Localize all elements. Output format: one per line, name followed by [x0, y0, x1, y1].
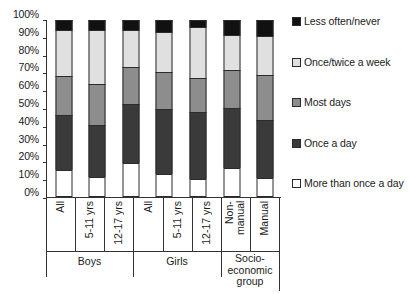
bar-segment-less-often-never: [89, 20, 106, 30]
category-axis: All 5-11 yrs 12-17 yrs All 5-11 yrs 12-1…: [46, 198, 281, 294]
category-separator: [133, 198, 134, 251]
bar-segment-more-than-once-a-day: [223, 168, 240, 197]
bar-segment-most-days: [257, 75, 274, 120]
bar-segment-once-twice-a-week: [257, 36, 274, 75]
y-tick-label-0: 0%: [24, 187, 39, 197]
category-label-girls-5-11: 5-11 yrs: [172, 201, 183, 238]
y-tick-label-30: 30%: [19, 134, 39, 144]
bar-segment-less-often-never: [156, 20, 173, 32]
bar-segment-most-days: [89, 84, 106, 126]
bar-segment-once-twice-a-week: [122, 30, 139, 67]
legend-swatch-icon: [292, 139, 301, 148]
stacked-bar-chart: 100% 90% 80% 70% 60% 50% 40% 30% 20% 10%…: [0, 0, 413, 294]
group-label-girls: Girls: [133, 256, 221, 268]
bar-stack: [122, 20, 139, 197]
category-separator: [46, 198, 47, 251]
y-tick-label-100: 100%: [13, 9, 39, 19]
bar-stack: [156, 20, 173, 197]
legend-item-more-than-once-a-day[interactable]: More than once a day: [292, 178, 404, 189]
legend-swatch-icon: [292, 17, 301, 26]
group-label-ses-line1: Socio-: [221, 253, 279, 265]
legend-item-once-a-day[interactable]: Once a day: [292, 138, 357, 149]
bar-segment-once-a-day: [89, 125, 106, 176]
bar-segment-most-days: [122, 67, 139, 104]
bar-segment-once-a-day: [55, 115, 72, 171]
bar-segment-more-than-once-a-day: [156, 174, 173, 197]
group-label-ses-line3: group: [221, 276, 279, 288]
bar-segment-less-often-never: [122, 20, 139, 30]
bar-segment-once-twice-a-week: [156, 32, 173, 72]
bar-girls-5-11[interactable]: [181, 20, 215, 197]
category-separator: [192, 198, 193, 251]
bar-boys-12-17[interactable]: [114, 20, 148, 197]
bar-segment-once-a-day: [223, 108, 240, 168]
bar-segment-most-days: [55, 76, 72, 115]
y-tick-label-60: 60%: [19, 80, 39, 90]
bar-segment-most-days: [156, 72, 173, 109]
category-separator: [279, 198, 280, 251]
group-label-boys: Boys: [46, 256, 133, 268]
bar-segment-once-twice-a-week: [55, 30, 72, 76]
category-separator: [75, 198, 76, 251]
bar-stack: [257, 20, 274, 197]
bar-segment-once-a-day: [156, 109, 173, 174]
legend-item-most-days[interactable]: Most days: [292, 97, 351, 108]
bar-segment-less-often-never: [223, 20, 240, 35]
bar-stack: [89, 20, 106, 197]
legend-swatch-icon: [292, 98, 301, 107]
legend-item-once-twice-a-week[interactable]: Once/twice a week: [292, 57, 390, 68]
category-separator: [104, 198, 105, 251]
category-label-girls-all: All: [143, 201, 154, 213]
category-label-ses-manual: Manual: [259, 201, 270, 235]
bar-boys-all[interactable]: [47, 20, 81, 197]
bar-segment-more-than-once-a-day: [122, 163, 139, 197]
legend-label: Less often/never: [304, 16, 380, 27]
bar-segment-more-than-once-a-day: [257, 178, 274, 197]
legend: Less often/neverOnce/twice a weekMost da…: [292, 16, 413, 196]
legend-label: More than once a day: [304, 178, 404, 189]
bar-segment-most-days: [223, 70, 240, 108]
bar-segment-once-twice-a-week: [89, 30, 106, 84]
legend-label: Once a day: [304, 138, 357, 149]
bar-stack: [190, 20, 207, 197]
category-label-boys-12-17: 12-17 yrs: [113, 201, 124, 245]
legend-label: Most days: [304, 97, 351, 108]
bar-stack: [55, 20, 72, 197]
bar-segment-most-days: [190, 78, 207, 112]
bar-segment-more-than-once-a-day: [190, 179, 207, 197]
category-separator: [221, 198, 222, 251]
y-tick-label-80: 80%: [19, 45, 39, 55]
y-tick-label-40: 40%: [19, 116, 39, 126]
bar-segment-once-twice-a-week: [190, 27, 207, 78]
bar-stack: [223, 20, 240, 197]
bar-segment-less-often-never: [55, 20, 72, 30]
bar-girls-12-17[interactable]: [215, 20, 249, 197]
bar-segment-more-than-once-a-day: [89, 177, 106, 197]
bar-segment-less-often-never: [190, 20, 207, 27]
y-tick-label-20: 20%: [19, 151, 39, 161]
legend-swatch-icon: [292, 179, 301, 188]
y-tick-label-70: 70%: [19, 62, 39, 72]
bar-segment-once-a-day: [190, 112, 207, 179]
bar-boys-5-11[interactable]: [81, 20, 115, 197]
legend-swatch-icon: [292, 58, 301, 67]
legend-label: Once/twice a week: [304, 57, 390, 68]
category-separator: [163, 198, 164, 251]
plot-area: [46, 20, 281, 198]
bar-segment-more-than-once-a-day: [55, 170, 72, 197]
bar-segment-once-a-day: [257, 120, 274, 178]
bar-girls-all[interactable]: [148, 20, 182, 197]
bar-segment-less-often-never: [257, 20, 274, 36]
bar-segment-once-twice-a-week: [223, 35, 240, 70]
bar-segment-once-a-day: [122, 104, 139, 163]
bar-ses-non-manual[interactable]: [248, 20, 282, 197]
y-tick-label-90: 90%: [19, 27, 39, 37]
y-tick-label-10: 10%: [19, 169, 39, 179]
legend-item-less-often-never[interactable]: Less often/never: [292, 16, 380, 27]
y-tick-label-50: 50%: [19, 98, 39, 108]
category-label-boys-all: All: [55, 201, 66, 213]
category-label-boys-5-11: 5-11 yrs: [84, 201, 95, 238]
y-axis: 100% 90% 80% 70% 60% 50% 40% 30% 20% 10%…: [0, 14, 43, 204]
category-label-girls-12-17: 12-17 yrs: [201, 201, 212, 245]
